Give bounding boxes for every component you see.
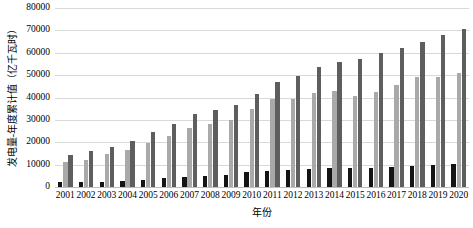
- x-axis-tick-label: 2015: [345, 189, 366, 203]
- bar: [187, 128, 191, 187]
- bar-group: [345, 8, 366, 187]
- bar-group: [179, 8, 200, 187]
- y-axis-tick-label: 30000: [26, 115, 50, 124]
- bar: [270, 99, 274, 187]
- chart-container: 发电量-年度累计值（亿千瓦时） 800007000060000500004000…: [0, 0, 473, 228]
- bar: [229, 120, 233, 187]
- y-axis-tick-label: 80000: [26, 3, 50, 12]
- bar-group: [324, 8, 345, 187]
- bar: [389, 167, 393, 187]
- bar: [457, 73, 461, 187]
- y-axis-tick-label: 70000: [26, 25, 50, 34]
- x-axis-tick-label: 2018: [407, 189, 428, 203]
- bar: [327, 168, 331, 187]
- bar: [193, 114, 197, 187]
- bar: [141, 180, 145, 187]
- x-axis-tick-label: 2004: [117, 189, 138, 203]
- bar-group: [200, 8, 221, 187]
- bar-group: [76, 8, 97, 187]
- x-axis-tick-label: 2002: [76, 189, 97, 203]
- bar: [89, 151, 93, 187]
- x-axis-tick-label: 2019: [428, 189, 449, 203]
- bar: [358, 59, 362, 187]
- y-axis-tick-label: 20000: [26, 137, 50, 146]
- bar: [84, 160, 88, 187]
- bar: [68, 155, 72, 187]
- bar-group: [448, 8, 469, 187]
- bar: [353, 96, 357, 187]
- x-axis-tick-label: 2003: [96, 189, 117, 203]
- y-axis-tick-label: 40000: [26, 93, 50, 102]
- bar-group: [55, 8, 76, 187]
- x-axis-tick-label: 2005: [138, 189, 159, 203]
- bar: [415, 77, 419, 187]
- bar: [420, 42, 424, 187]
- bar: [203, 176, 207, 187]
- bar: [208, 124, 212, 187]
- bar-group: [96, 8, 117, 187]
- bar-group: [221, 8, 242, 187]
- y-axis-tick-label: 0: [45, 182, 50, 191]
- bar: [312, 93, 316, 187]
- x-axis-tick-label: 2013: [303, 189, 324, 203]
- bar: [125, 150, 129, 187]
- x-axis-tick-label: 2012: [283, 189, 304, 203]
- bar-group: [283, 8, 304, 187]
- bar-group: [366, 8, 387, 187]
- bar: [400, 48, 404, 187]
- bar: [451, 164, 455, 187]
- bar: [291, 99, 295, 187]
- bar: [379, 53, 383, 187]
- x-axis-tick-label: 2001: [55, 189, 76, 203]
- bar: [369, 168, 373, 187]
- bar: [307, 169, 311, 187]
- bar: [130, 141, 134, 187]
- x-axis-tick-label: 2016: [366, 189, 387, 203]
- bar: [151, 132, 155, 187]
- y-axis-tick-label: 50000: [26, 70, 50, 79]
- bar-group: [159, 8, 180, 187]
- bar: [110, 147, 114, 187]
- bar: [182, 177, 186, 187]
- bar-group: [241, 8, 262, 187]
- bar: [286, 170, 290, 187]
- bar: [436, 77, 440, 187]
- bar: [105, 154, 109, 187]
- bar: [265, 171, 269, 187]
- bar-group: [428, 8, 449, 187]
- bar: [394, 85, 398, 187]
- bar: [441, 35, 445, 187]
- x-axis-tick-label: 2014: [324, 189, 345, 203]
- plot-area: [55, 8, 469, 187]
- bar: [296, 76, 300, 187]
- bar: [250, 109, 254, 187]
- x-axis-tick-label: 2017: [386, 189, 407, 203]
- x-axis-tick-label: 2009: [221, 189, 242, 203]
- bar: [213, 110, 217, 187]
- bar: [317, 67, 321, 187]
- bar-group: [262, 8, 283, 187]
- bar: [63, 162, 67, 187]
- bar-group: [117, 8, 138, 187]
- bar: [146, 143, 150, 187]
- bar-group: [407, 8, 428, 187]
- y-axis-tick-labels: 8000070000600005000040000300002000010000…: [0, 0, 53, 228]
- bar: [337, 62, 341, 187]
- bar: [162, 178, 166, 187]
- bar: [410, 166, 414, 187]
- x-axis-tick-label: 2008: [200, 189, 221, 203]
- bar: [332, 91, 336, 187]
- y-axis-tick-label: 10000: [26, 160, 50, 169]
- bar: [275, 82, 279, 187]
- bar-group: [386, 8, 407, 187]
- bar: [167, 136, 171, 187]
- bar: [462, 29, 466, 187]
- bar: [172, 124, 176, 187]
- bar: [234, 105, 238, 187]
- bar-groups: [55, 8, 469, 187]
- x-axis-title: 年份: [55, 204, 469, 219]
- x-axis-line: [55, 187, 469, 188]
- bar: [431, 165, 435, 187]
- bar-group: [303, 8, 324, 187]
- bar-group: [138, 8, 159, 187]
